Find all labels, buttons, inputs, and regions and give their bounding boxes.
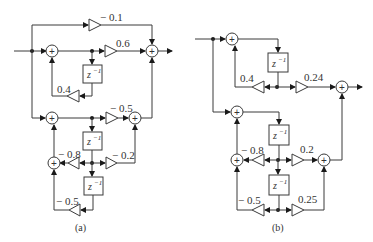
gain-label-025: 0.25 xyxy=(298,193,318,205)
gain-label-04: 0.4 xyxy=(240,72,254,84)
gain-label-m08: − 0.8 xyxy=(241,144,264,156)
svg-text:z: z xyxy=(86,136,91,147)
svg-text:−1: −1 xyxy=(93,134,101,142)
svg-text:z: z xyxy=(271,58,276,69)
caption-a: (a) xyxy=(75,222,86,234)
diagram-b: + z −1 0.4 0.24 + + z −1 − 0.8 + xyxy=(195,33,362,234)
svg-text:z: z xyxy=(272,130,277,141)
gain-label-m05-bottom: − 0.5 xyxy=(56,195,79,207)
gain-amplifier xyxy=(292,154,304,166)
svg-text:−1: −1 xyxy=(278,56,286,64)
svg-text:z: z xyxy=(272,180,277,191)
svg-text:−1: −1 xyxy=(94,179,102,187)
block-diagrams: − 0.1 + 0.6 + z −1 0.4 + − 0.5 + xyxy=(0,0,373,242)
caption-b: (b) xyxy=(272,222,284,234)
gain-amplifier xyxy=(292,204,304,216)
gain-label-m02: − 0.2 xyxy=(112,149,135,161)
gain-label-02: 0.2 xyxy=(300,143,314,155)
svg-text:+: + xyxy=(132,113,138,124)
svg-text:+: + xyxy=(339,82,345,93)
gain-label-06: 0.6 xyxy=(116,37,130,49)
svg-text:+: + xyxy=(149,46,155,57)
svg-text:−1: −1 xyxy=(279,128,287,136)
gain-label-m05: − 0.5 xyxy=(238,194,261,206)
svg-text:−1: −1 xyxy=(279,178,287,186)
svg-text:+: + xyxy=(321,155,327,166)
svg-text:+: + xyxy=(234,107,240,118)
gain-label-m05-top: − 0.5 xyxy=(110,102,133,114)
gain-label-m08: − 0.8 xyxy=(58,148,81,160)
svg-text:+: + xyxy=(51,158,57,169)
svg-text:+: + xyxy=(234,155,240,166)
svg-text:+: + xyxy=(49,46,55,57)
svg-text:+: + xyxy=(49,113,55,124)
svg-text:z: z xyxy=(86,69,91,80)
gain-label-024: 0.24 xyxy=(304,71,324,83)
gain-label-top: − 0.1 xyxy=(100,11,123,23)
gain-label-04: 0.4 xyxy=(57,83,71,95)
diagram-a: − 0.1 + 0.6 + z −1 0.4 + − 0.5 + xyxy=(14,11,172,234)
gain-amplifier xyxy=(252,81,264,93)
svg-text:+: + xyxy=(229,34,235,45)
svg-text:−1: −1 xyxy=(93,67,101,75)
svg-text:z: z xyxy=(87,181,92,192)
